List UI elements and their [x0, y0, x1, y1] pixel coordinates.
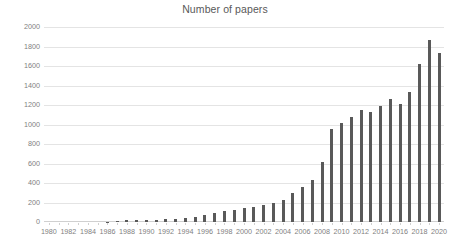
x-axis-tick-label: 2000	[236, 228, 252, 235]
bar	[233, 210, 236, 222]
bar	[438, 53, 441, 222]
y-axis-tick-label: 1600	[2, 62, 40, 69]
x-axis-tick-label: 2018	[412, 228, 428, 235]
x-axis-tick	[68, 223, 69, 225]
x-axis-tick	[312, 223, 313, 225]
x-axis-tick	[195, 223, 196, 225]
bar	[350, 117, 353, 222]
bar	[252, 207, 255, 222]
x-axis-tick-label: 1984	[80, 228, 96, 235]
bar	[135, 220, 138, 222]
bar	[399, 104, 402, 222]
bar	[223, 211, 226, 222]
y-axis-tick-label: 600	[2, 160, 40, 167]
x-axis-tick	[371, 223, 372, 225]
bar	[408, 92, 411, 222]
x-axis-tick	[439, 223, 440, 225]
bar	[272, 203, 275, 222]
x-axis-tick	[146, 223, 147, 225]
x-axis-tick	[351, 223, 352, 225]
bar-chart: Number of papers 02004006008001000120014…	[0, 0, 450, 249]
y-axis-tick-label: 1400	[2, 82, 40, 89]
bar	[243, 208, 246, 222]
x-axis-tick	[332, 223, 333, 225]
x-axis-tick-label: 1990	[138, 228, 154, 235]
x-axis-tick	[78, 223, 79, 225]
bar	[330, 129, 333, 222]
x-axis-tick	[49, 223, 50, 225]
x-axis-tick	[254, 223, 255, 225]
x-axis-tick	[88, 223, 89, 225]
x-axis-tick-label: 1988	[119, 228, 135, 235]
x-axis-tick-label: 1998	[216, 228, 232, 235]
bar	[360, 110, 363, 222]
x-axis-tick	[98, 223, 99, 225]
x-axis-tick-label: 2010	[334, 228, 350, 235]
y-axis-tick-label: 1200	[2, 101, 40, 108]
bar	[116, 221, 119, 222]
bar	[164, 219, 167, 222]
gridline	[44, 183, 444, 184]
x-axis-tick-label: 2014	[373, 228, 389, 235]
gridline	[44, 27, 444, 28]
x-axis-tick-label: 1986	[99, 228, 115, 235]
bar	[155, 220, 158, 222]
bar	[301, 187, 304, 222]
x-axis-tick	[59, 223, 60, 225]
x-axis-tick	[273, 223, 274, 225]
x-axis-tick	[224, 223, 225, 225]
x-axis-tick-label: 1982	[60, 228, 76, 235]
x-axis-tick	[205, 223, 206, 225]
x-axis-tick-label: 1996	[197, 228, 213, 235]
x-axis-tick	[117, 223, 118, 225]
gridline	[44, 105, 444, 106]
x-axis-tick	[185, 223, 186, 225]
chart-title: Number of papers	[0, 3, 450, 15]
y-axis: 0200400600800100012001400160018002000	[0, 27, 40, 222]
x-axis-tick	[166, 223, 167, 225]
x-axis-tick	[390, 223, 391, 225]
gridline	[44, 164, 444, 165]
x-axis-tick	[137, 223, 138, 225]
x-axis-tick-label: 2012	[353, 228, 369, 235]
y-axis-tick-label: 200	[2, 199, 40, 206]
x-axis-tick	[400, 223, 401, 225]
bar	[369, 112, 372, 222]
gridline	[44, 203, 444, 204]
x-axis-tick	[342, 223, 343, 225]
gridline	[44, 66, 444, 67]
bar	[321, 162, 324, 222]
x-axis-tick-label: 1992	[158, 228, 174, 235]
bar	[311, 180, 314, 222]
x-axis-tick	[156, 223, 157, 225]
x-axis-tick	[429, 223, 430, 225]
x-axis-tick	[244, 223, 245, 225]
x-axis-tick-label: 2016	[392, 228, 408, 235]
x-axis-tick	[215, 223, 216, 225]
y-axis-tick-label: 400	[2, 179, 40, 186]
y-axis-tick-label: 1000	[2, 121, 40, 128]
x-axis-tick	[264, 223, 265, 225]
x-axis-tick	[283, 223, 284, 225]
bar	[389, 99, 392, 222]
bar	[125, 220, 128, 222]
y-axis-tick-label: 0	[2, 218, 40, 225]
bar	[428, 40, 431, 222]
bar	[262, 205, 265, 222]
plot-area	[44, 27, 444, 222]
bar	[194, 217, 197, 222]
x-axis-tick	[234, 223, 235, 225]
x-axis-tick	[107, 223, 108, 225]
gridline	[44, 47, 444, 48]
x-axis-tick	[361, 223, 362, 225]
bar	[379, 106, 382, 222]
bar	[184, 218, 187, 222]
gridline	[44, 125, 444, 126]
x-axis-tick	[127, 223, 128, 225]
bar	[145, 220, 148, 222]
bar	[174, 219, 177, 222]
bar	[203, 215, 206, 222]
x-axis-tick	[420, 223, 421, 225]
bar	[213, 213, 216, 222]
x-axis-tick-label: 1994	[177, 228, 193, 235]
